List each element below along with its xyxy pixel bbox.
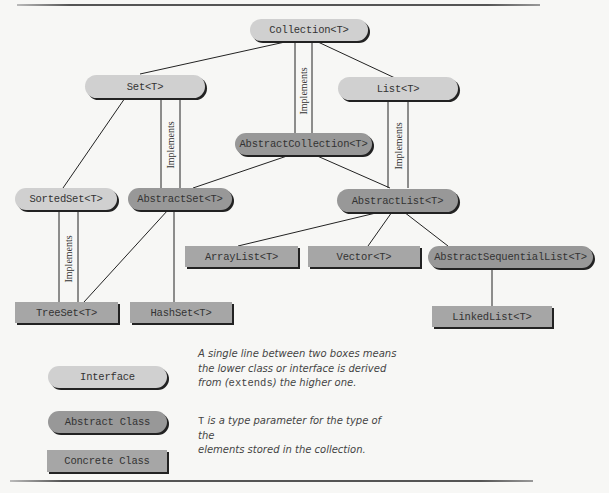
note-line: from (extends) the higher one.: [198, 376, 398, 391]
note-text: from (: [198, 377, 229, 388]
node-abstract-list: AbstractList<T>: [337, 189, 458, 212]
note-text: is a type parameter for the type of the: [198, 415, 381, 441]
implements-label-list: Implements: [393, 116, 404, 170]
node-treeset: TreeSet<T>: [15, 302, 118, 323]
implements-label-set: Implements: [165, 115, 176, 169]
note-line: T is a type parameter for the type of th…: [198, 414, 398, 443]
note-type-param: T is a type parameter for the type of th…: [198, 414, 398, 458]
node-abstract-collection: AbstractCollection<T>: [235, 133, 372, 155]
note-single-line: A single line between two boxes means th…: [198, 347, 398, 391]
node-list: List<T>: [338, 77, 458, 100]
node-vector: Vector<T>: [308, 246, 420, 267]
node-hashset: HashSet<T>: [130, 302, 232, 323]
legend-interface: Interface: [48, 366, 167, 388]
node-collection: Collection<T>: [250, 19, 368, 41]
note-line: A single line between two boxes means: [198, 347, 398, 362]
note-code: extends: [229, 377, 273, 389]
legend-abstract-class: Abstract Class: [48, 411, 167, 433]
note-line: elements stored in the collection.: [198, 443, 398, 458]
node-abstract-sequential-list: AbstractSequentialList<T>: [428, 246, 593, 268]
node-sortedset: SortedSet<T>: [15, 188, 117, 210]
node-set: Set<T>: [85, 75, 205, 98]
implements-label-sortedset: Implements: [63, 229, 74, 283]
legend-concrete-class: Concrete Class: [47, 450, 167, 472]
node-linkedlist: LinkedList<T>: [432, 306, 552, 327]
node-abstract-set: AbstractSet<T>: [128, 188, 232, 210]
note-text: ) the higher one.: [273, 377, 357, 388]
node-arraylist: ArrayList<T>: [185, 246, 298, 267]
implements-label-collection: Implements: [298, 61, 309, 115]
note-line: the lower class or interface is derived: [198, 362, 398, 377]
